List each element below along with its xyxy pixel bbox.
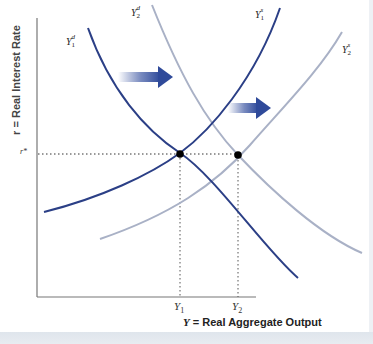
demand-curve-1 [88, 28, 298, 278]
x-axis-title: Y = Real Aggregate Output [183, 316, 322, 328]
rstar-tick-label: r* [20, 147, 27, 156]
y2-tick-label: Y2 [232, 300, 242, 315]
equilibrium-point-2 [234, 151, 242, 159]
demand-curve-1-label: Yd1 [66, 37, 78, 47]
demand-shift-arrow-icon [118, 66, 173, 88]
y1-tick-label: Y1 [174, 300, 184, 315]
supply-curve-1-label: Ys1 [255, 10, 267, 20]
equilibrium-point-1 [176, 150, 184, 158]
y-axis-title: r = Real Interest Rate [8, 0, 24, 160]
chart-plot [0, 0, 373, 344]
supply-curve-2-label: Ys2 [342, 45, 354, 55]
supply-shift-arrow-icon [228, 97, 271, 119]
demand-curve-2-label: Yd2 [131, 8, 143, 18]
demand-curve-2 [152, 5, 362, 253]
